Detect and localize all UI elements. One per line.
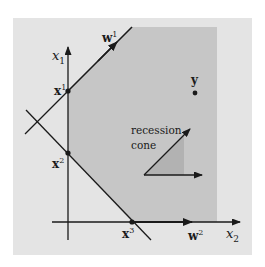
polyhedron-diagram: x1 x2 x1 x2 x3 y w1 w2 recession cone	[0, 0, 265, 267]
label-y: y	[190, 73, 199, 87]
point-x2	[65, 150, 70, 155]
recession-cone-label-line2: cone	[131, 139, 156, 151]
recession-cone-label-line1: recession	[131, 124, 182, 136]
point-x3	[129, 219, 134, 224]
point-y	[193, 91, 198, 96]
